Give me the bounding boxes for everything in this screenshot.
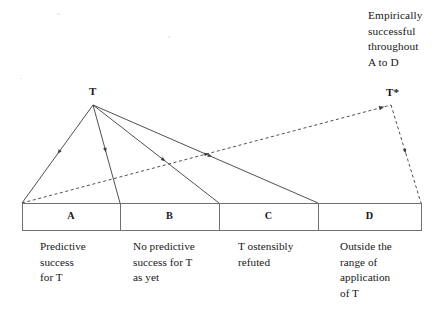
dashed-edge-tstar-to-D-right xyxy=(391,105,421,203)
edge-apex-to-BC-edge xyxy=(93,105,219,203)
node-label-t: T xyxy=(89,84,97,99)
cell-letter-a: A xyxy=(22,209,120,224)
caption-line: Outside the xyxy=(340,239,392,255)
caption-line: for T xyxy=(40,270,86,286)
caption-line: range of xyxy=(340,255,392,271)
edge-apex-to-A-left xyxy=(22,105,93,203)
edge-arrowhead xyxy=(403,148,407,153)
caption-line: Predictive xyxy=(40,239,86,255)
cell-caption-a: Predictivesuccessfor T xyxy=(40,239,86,286)
solid-edge-layer xyxy=(22,105,318,203)
annotation-line: Empirically xyxy=(368,8,422,24)
edge-apex-to-AB-edge xyxy=(93,105,120,203)
annotation-line: A to D xyxy=(368,55,422,71)
cell-letter-d: D xyxy=(318,209,421,224)
annotation-line: successful xyxy=(368,24,422,40)
edge-arrowhead xyxy=(103,147,107,152)
cell-caption-d: Outside therange ofapplicationof T xyxy=(340,239,392,301)
caption-line: success for T xyxy=(133,255,195,271)
caption-line: of T xyxy=(340,286,392,302)
caption-line: No predictive xyxy=(133,239,195,255)
caption-line: application xyxy=(340,270,392,286)
cell-caption-c: T ostensiblyrefuted xyxy=(238,239,293,270)
caption-line: refuted xyxy=(238,255,293,271)
edge-arrowhead xyxy=(58,149,62,154)
diagram-figure: EmpiricallysuccessfulthroughoutA to D T … xyxy=(0,0,443,321)
caption-line: as yet xyxy=(133,270,195,286)
caption-line: success xyxy=(40,255,86,271)
annotation-line: throughout xyxy=(368,39,422,55)
cell-letter-b: B xyxy=(120,209,219,224)
edge-arrowhead xyxy=(379,106,385,110)
cell-caption-b: No predictivesuccess for Tas yet xyxy=(133,239,195,286)
caption-line: T ostensibly xyxy=(238,239,293,255)
node-label-t-star: T* xyxy=(386,85,399,100)
annotation-empirically-successful: EmpiricallysuccessfulthroughoutA to D xyxy=(368,8,422,70)
cell-letter-c: C xyxy=(219,209,318,224)
